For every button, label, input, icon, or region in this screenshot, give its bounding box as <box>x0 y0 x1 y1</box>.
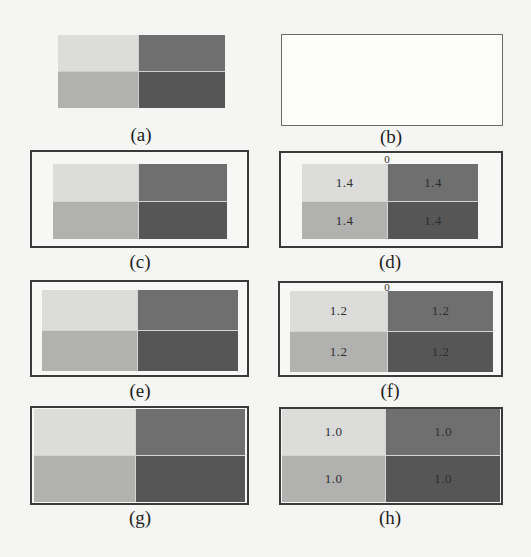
panel-h-grid: 1.0 1.0 1.0 1.0 <box>282 409 500 502</box>
cell-bottom-left <box>58 72 138 108</box>
cell-bottom-right: 1.0 <box>386 456 500 502</box>
cell-top-left <box>42 290 137 330</box>
cell-top-left <box>58 35 138 71</box>
panel-g-grid <box>34 409 245 502</box>
panel-a-caption: (a) <box>130 125 151 144</box>
cell-top-right <box>138 290 238 330</box>
panel-f-caption: (f) <box>381 381 400 400</box>
panel-d-grid: 1.4 1.4 1.4 1.4 <box>302 164 478 239</box>
panel-g-caption: (g) <box>129 508 151 527</box>
cell-bottom-left <box>53 202 138 239</box>
cell-bottom-left: 1.2 <box>290 332 387 372</box>
cell-bottom-right: 1.4 <box>388 202 478 239</box>
cell-top-right: 1.4 <box>388 164 478 201</box>
cell-bottom-left <box>34 456 135 502</box>
cell-top-left <box>34 409 135 455</box>
cell-bottom-right <box>139 72 225 108</box>
panel-b-frame <box>281 34 503 126</box>
cell-top-right <box>139 35 225 71</box>
cell-bottom-right: 1.2 <box>388 332 493 372</box>
cell-bottom-left <box>42 331 137 371</box>
cell-top-right <box>139 164 227 201</box>
panel-d-caption: (d) <box>379 252 401 271</box>
panel-c-caption: (c) <box>129 252 150 271</box>
cell-top-left: 1.0 <box>282 409 385 455</box>
cell-top-right: 1.0 <box>386 409 500 455</box>
panel-f-grid: 1.2 1.2 1.2 1.2 <box>290 291 493 372</box>
cell-top-left: 1.4 <box>302 164 387 201</box>
panel-c-grid <box>53 164 227 239</box>
cell-bottom-right <box>139 202 227 239</box>
panel-h-caption: (h) <box>379 508 401 527</box>
cell-top-right: 1.2 <box>388 291 493 331</box>
panel-e-caption: (e) <box>129 381 150 400</box>
cell-bottom-left: 1.4 <box>302 202 387 239</box>
cell-bottom-left: 1.0 <box>282 456 385 502</box>
cell-top-right <box>136 409 245 455</box>
panel-b-caption: (b) <box>380 127 402 146</box>
cell-bottom-right <box>138 331 238 371</box>
cell-top-left: 1.2 <box>290 291 387 331</box>
panel-a-grid <box>58 35 225 108</box>
cell-bottom-right <box>136 456 245 502</box>
panel-e-grid <box>42 290 238 371</box>
cell-top-left <box>53 164 138 201</box>
